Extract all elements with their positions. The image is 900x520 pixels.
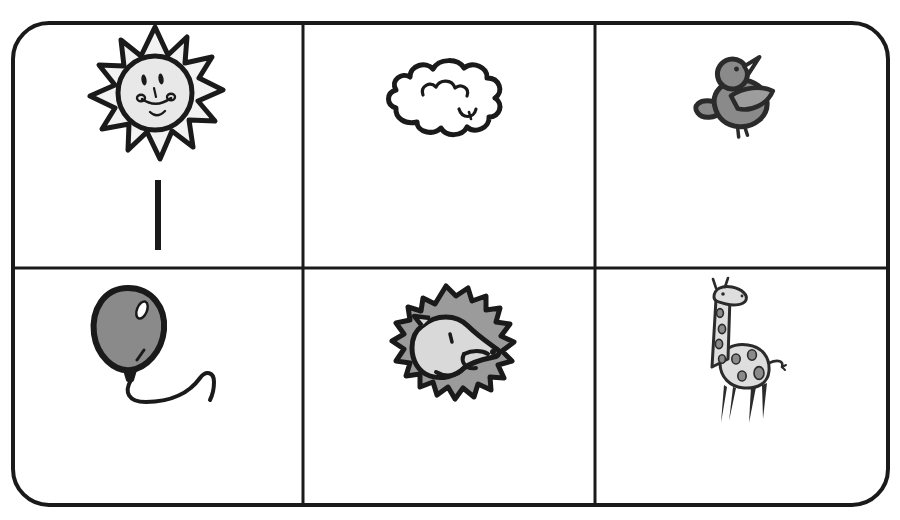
picture-grid (0, 0, 900, 520)
worksheet-canvas (0, 0, 900, 520)
